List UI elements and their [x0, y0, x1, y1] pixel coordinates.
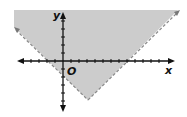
origin-label: O [67, 65, 76, 78]
x-axis-label: x [164, 64, 173, 77]
y-axis-down-arrow-icon [60, 105, 66, 112]
shaded-region [14, 10, 178, 100]
y-axis-label: y [53, 9, 61, 22]
x-axis-left-arrow-icon [17, 58, 24, 64]
graph: y x O [0, 0, 187, 117]
